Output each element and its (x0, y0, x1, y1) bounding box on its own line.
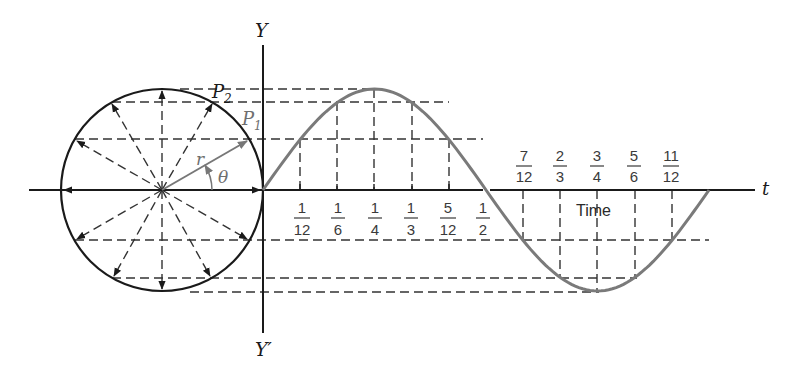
tick-label-11-12: 1112 (663, 147, 680, 185)
tick-label-3-4: 34 (590, 147, 604, 185)
tick-label-1-3: 13 (404, 199, 418, 238)
fractions-below: 112 16 14 13 512 12 (294, 199, 490, 238)
vector-240 (114, 190, 162, 276)
vector-330 (162, 190, 247, 239)
time-label: Time (576, 202, 611, 219)
theta-label: θ (218, 167, 228, 187)
svg-text:12: 12 (440, 221, 457, 238)
sine-wave-phasor-diagram: Y Y′ t P 2 P 1 r θ Time 112 16 14 13 512… (0, 0, 787, 375)
vector-60 (162, 104, 212, 190)
tick-label-7-12: 712 (516, 147, 533, 185)
angle-arc (205, 165, 212, 190)
svg-text:12: 12 (294, 221, 311, 238)
vector-210 (77, 190, 162, 239)
svg-text:3: 3 (407, 221, 415, 238)
tick-label-1-4: 14 (368, 199, 382, 238)
p2-subscript: 2 (223, 92, 232, 106)
svg-text:6: 6 (630, 168, 638, 185)
t-axis-label: t (762, 178, 770, 199)
vector-300 (162, 190, 210, 276)
svg-text:6: 6 (334, 221, 342, 238)
svg-text:1: 1 (298, 199, 306, 216)
svg-text:5: 5 (444, 199, 452, 216)
tick-label-1-6: 16 (331, 199, 345, 238)
tick-label-2-3: 23 (553, 147, 567, 185)
p1-subscript: 1 (254, 119, 262, 133)
p1-label: P (241, 108, 255, 129)
tick-label-1-12: 112 (294, 199, 311, 238)
tick-label-1-2: 12 (476, 199, 490, 238)
svg-text:1: 1 (334, 199, 342, 216)
svg-text:1: 1 (479, 199, 487, 216)
svg-text:1: 1 (371, 199, 379, 216)
svg-text:5: 5 (630, 147, 638, 164)
svg-text:2: 2 (556, 147, 564, 164)
svg-text:4: 4 (593, 168, 601, 185)
tick-label-5-6: 56 (627, 147, 641, 185)
svg-text:2: 2 (479, 221, 487, 238)
vector-150 (77, 141, 162, 190)
fractions-above: 712 23 34 56 1112 (516, 147, 680, 185)
svg-text:4: 4 (371, 221, 379, 238)
svg-text:1: 1 (407, 199, 415, 216)
svg-text:3: 3 (556, 168, 564, 185)
svg-text:12: 12 (663, 168, 680, 185)
svg-text:7: 7 (520, 147, 528, 164)
tick-label-5-12: 512 (440, 199, 457, 238)
vector-120 (112, 104, 162, 190)
svg-text:3: 3 (593, 147, 601, 164)
y-prime-axis-label: Y′ (255, 338, 273, 360)
svg-text:11: 11 (663, 147, 679, 164)
radius-label: r (196, 149, 205, 169)
y-axis-label: Y (255, 19, 270, 41)
svg-text:12: 12 (516, 168, 533, 185)
p2-label: P (211, 81, 225, 102)
